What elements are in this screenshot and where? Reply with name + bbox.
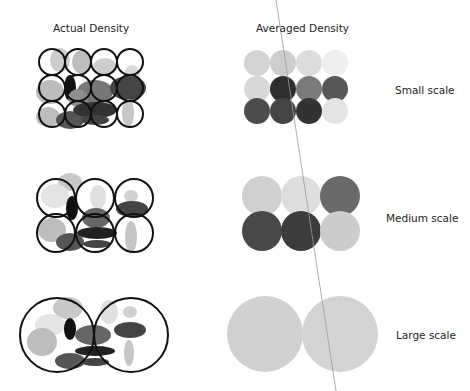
small-averaged	[244, 50, 348, 124]
large-averaged	[227, 296, 378, 372]
header-averaged: Averaged Density	[256, 22, 349, 34]
header-actual: Actual Density	[53, 22, 129, 34]
medium-averaged	[242, 176, 360, 251]
row-label-small: Small scale	[395, 84, 455, 96]
row-label-medium: Medium scale	[386, 212, 458, 224]
medium-actual-blobs	[38, 173, 148, 253]
row-label-large: Large scale	[396, 329, 456, 341]
